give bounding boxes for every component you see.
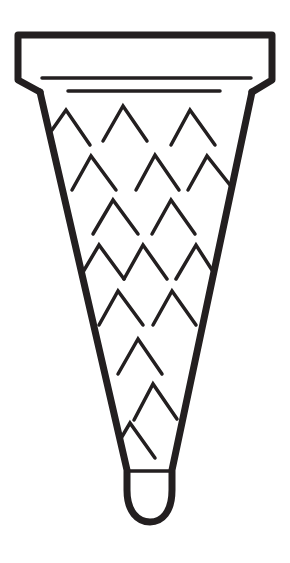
drawing-canvas: Ice cream cone line drawing [0, 0, 290, 563]
ice-cream-cone-icon [0, 0, 290, 563]
